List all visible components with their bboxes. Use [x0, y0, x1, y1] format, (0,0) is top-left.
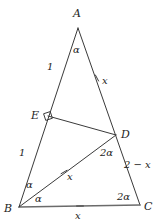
geometry-figure: ABCDE 1x12 − xxx ααα2α2α: [0, 0, 157, 222]
C: C: [144, 201, 152, 212]
E: E: [31, 110, 39, 121]
D: D: [121, 129, 130, 140]
angle-DBC: α: [35, 194, 42, 204]
DC-length: 2 − x: [124, 160, 151, 170]
angle-A: α: [73, 45, 80, 55]
BC-length: x: [75, 211, 81, 221]
BD-length: x: [67, 172, 73, 182]
angle-BDC: 2α: [100, 148, 113, 158]
A: A: [73, 8, 81, 19]
EB-length: 1: [19, 148, 25, 158]
B: B: [4, 203, 12, 214]
segment-AC: [78, 28, 140, 205]
AE-length: 1: [47, 62, 53, 72]
segment-ED: [48, 116, 116, 135]
angle-ABD: α: [26, 180, 33, 190]
geometry-canvas: [0, 0, 157, 222]
tick-marks-group: [61, 75, 99, 206]
angle-C: 2α: [117, 192, 130, 202]
AD-length: x: [102, 76, 108, 86]
